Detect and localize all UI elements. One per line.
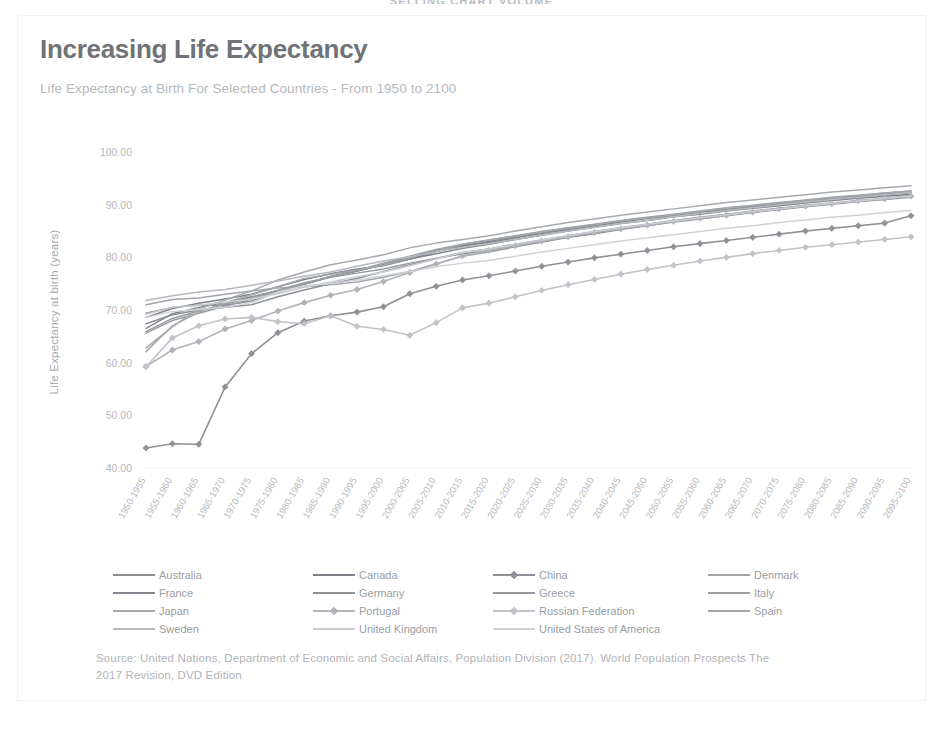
series-line — [146, 196, 911, 314]
legend-label: Denmark — [754, 569, 799, 581]
series-marker — [459, 277, 465, 283]
chart-legend: AustraliaCanadaChinaDenmarkFranceGermany… — [113, 566, 903, 638]
legend-item[interactable]: Japan — [113, 605, 313, 617]
legend-line-icon — [708, 588, 750, 598]
y-tick-label: 50.00 — [106, 409, 132, 421]
series-marker — [697, 258, 703, 264]
series-marker — [776, 247, 782, 253]
series-marker — [539, 263, 545, 269]
series-marker — [723, 254, 729, 260]
series-marker — [354, 323, 360, 329]
series-marker — [301, 300, 307, 306]
legend-line-icon — [493, 570, 535, 580]
series-marker — [591, 255, 597, 261]
series-marker — [275, 308, 281, 314]
series-marker — [486, 273, 492, 279]
series-marker — [486, 300, 492, 306]
series-marker — [644, 247, 650, 253]
legend-line-icon — [313, 624, 355, 634]
legend-item[interactable]: China — [493, 569, 708, 581]
series-line — [146, 192, 911, 328]
series-marker — [433, 320, 439, 326]
legend-label: United Kingdom — [359, 623, 437, 635]
legend-item[interactable]: Denmark — [708, 569, 868, 581]
legend-diamond-marker-icon — [510, 571, 518, 579]
legend-line-icon — [493, 624, 535, 634]
legend-line-icon — [113, 570, 155, 580]
legend-line-icon — [708, 606, 750, 616]
legend-label: Canada — [359, 569, 398, 581]
series-marker — [354, 286, 360, 292]
page-banner: SELLING CHART VOLUME — [0, 0, 943, 4]
series-marker — [169, 441, 175, 447]
series-line — [146, 186, 911, 348]
legend-item[interactable]: United Kingdom — [313, 623, 493, 635]
series-line — [146, 196, 911, 366]
series-marker — [328, 313, 334, 319]
legend-item[interactable]: Russian Federation — [493, 605, 708, 617]
series-marker — [670, 244, 676, 250]
chart-subtitle: Life Expectancy at Birth For Selected Co… — [40, 81, 456, 96]
legend-label: Greece — [539, 587, 575, 599]
legend-item[interactable]: Italy — [708, 587, 868, 599]
series-marker — [407, 332, 413, 338]
legend-item[interactable]: Greece — [493, 587, 708, 599]
series-marker — [829, 242, 835, 248]
series-marker — [723, 237, 729, 243]
series-marker — [855, 223, 861, 229]
series-marker — [459, 305, 465, 311]
legend-line-icon — [113, 624, 155, 634]
legend-label: Italy — [754, 587, 774, 599]
series-marker — [407, 291, 413, 297]
series-marker — [591, 276, 597, 282]
line-chart: 40.0050.0060.0070.0080.0090.00100.001950… — [18, 116, 925, 546]
legend-item[interactable]: Portugal — [313, 605, 493, 617]
legend-label: Portugal — [359, 605, 400, 617]
legend-label: Germany — [359, 587, 404, 599]
legend-item[interactable]: Germany — [313, 587, 493, 599]
legend-diamond-marker-icon — [510, 607, 518, 615]
legend-item[interactable]: Australia — [113, 569, 313, 581]
series-line — [146, 197, 911, 305]
series-marker — [670, 262, 676, 268]
series-line — [146, 197, 911, 323]
legend-item[interactable]: Spain — [708, 605, 868, 617]
legend-item[interactable]: Canada — [313, 569, 493, 581]
series-line — [146, 191, 911, 333]
series-marker — [829, 225, 835, 231]
series-marker — [275, 318, 281, 324]
series-marker — [354, 309, 360, 315]
legend-line-icon — [113, 606, 155, 616]
series-marker — [222, 316, 228, 322]
chart-plot-area: Life Expectancy at birth (years) 40.0050… — [18, 116, 925, 546]
legend-label: China — [539, 569, 568, 581]
series-marker — [855, 239, 861, 245]
series-marker — [776, 231, 782, 237]
y-tick-label: 60.00 — [106, 357, 132, 369]
legend-item[interactable]: France — [113, 587, 313, 599]
chart-card: Increasing Life Expectancy Life Expectan… — [17, 15, 926, 701]
series-marker — [380, 304, 386, 310]
series-marker — [750, 251, 756, 257]
series-marker — [908, 234, 914, 240]
y-tick-label: 70.00 — [106, 304, 132, 316]
legend-item[interactable]: Sweden — [113, 623, 313, 635]
legend-item[interactable]: United States of America — [493, 623, 708, 635]
legend-label: Australia — [159, 569, 202, 581]
legend-label: Spain — [754, 605, 782, 617]
series-marker — [196, 441, 202, 447]
legend-line-icon — [708, 570, 750, 580]
series-line — [146, 191, 911, 352]
series-marker — [697, 241, 703, 247]
series-marker — [222, 326, 228, 332]
legend-label: France — [159, 587, 193, 599]
y-axis-label: Life Expectancy at birth (years) — [48, 222, 60, 402]
legend-label: Sweden — [159, 623, 199, 635]
series-marker — [882, 220, 888, 226]
series-marker — [143, 445, 149, 451]
series-marker — [196, 323, 202, 329]
legend-line-icon — [493, 606, 535, 616]
series-line — [146, 193, 911, 301]
series-marker — [512, 294, 518, 300]
series-line — [146, 196, 911, 332]
